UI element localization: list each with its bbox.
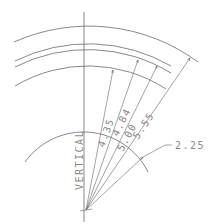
arc-4-84 <box>15 50 171 73</box>
arc-5-00 <box>15 44 171 66</box>
inner-radius-label: 2.25 <box>175 140 205 151</box>
arcs <box>14 26 198 172</box>
arc-4-35 <box>15 66 166 89</box>
radial-dimension-drawing: VERTICAL 4.35 4.84 5.00 5.55 2.25 <box>0 0 217 224</box>
vertical-label: VERTICAL <box>74 130 85 190</box>
